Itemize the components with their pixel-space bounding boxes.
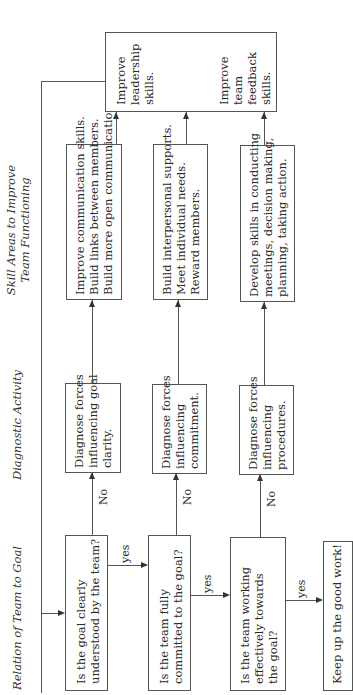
top-box-leadership-feedback: Improve leadership skills. Improve team … <box>105 32 277 112</box>
skill-3-line3: planning, taking action. <box>275 133 289 297</box>
yes-line-2 <box>191 595 224 596</box>
skill-box-communication: Improve communication skills. Build link… <box>66 144 122 300</box>
no-label-3: No <box>265 491 278 507</box>
feedback-line3: feedback <box>245 52 259 105</box>
skill-2-line3: Reward members. <box>188 124 202 295</box>
skill-3-line2: meetings, decision making, <box>261 133 275 297</box>
skill-top-arrow-3-icon <box>261 112 267 119</box>
skill-2-line1: Build interpersonal supports. <box>160 124 174 295</box>
header-diagnostic-activity: Diagnostic Activity <box>10 365 24 485</box>
diagnostic-1-line2: influencing goal <box>86 374 100 468</box>
no-arrow-1-icon <box>89 472 95 479</box>
no-line-3 <box>260 474 261 537</box>
header-relation-to-goal: Relation of Team to Goal <box>10 550 24 690</box>
diagnostic-2-line1: Diagnose forces <box>159 375 173 469</box>
diagnostic-box-goal-clarity: Diagnose forces influencing goal clarity… <box>65 383 121 473</box>
header-skill-line1: Skill Areas to Improve <box>4 155 18 305</box>
question-1-line2: understood by the team? <box>88 539 102 684</box>
no-label-2: No <box>181 489 194 505</box>
question-box-effectiveness: Is the team working effectively towards … <box>230 537 286 691</box>
diagnostic-2-line2: influencing <box>173 375 187 469</box>
no-label-1: No <box>97 489 110 505</box>
feedback-line4: skills. <box>259 52 273 105</box>
diagnostic-3-line2: influencing <box>260 376 274 470</box>
skill-1-line2: Build links between members. <box>87 102 101 295</box>
header-skill-areas: Skill Areas to Improve Team Functioning <box>4 155 32 305</box>
no-arrow-2-icon <box>173 473 179 480</box>
leadership-line2: leadership <box>128 44 142 105</box>
diag-skill-arrow-2-icon <box>175 300 181 307</box>
no-line-2 <box>176 473 177 535</box>
skill-box-interpersonal: Build interpersonal supports. Meet indiv… <box>153 144 208 300</box>
yes-arrow-3-icon <box>316 597 323 603</box>
diagnostic-3-line3: procedures. <box>274 376 288 470</box>
yes-arrow-2-icon <box>223 592 230 598</box>
question-3-line2: effectively towards <box>252 567 266 684</box>
question-3-line1: Is the team working <box>238 567 252 684</box>
final-text: Keep up the good work! <box>330 544 344 684</box>
diag-skill-arrow-3-icon <box>261 302 267 309</box>
question-2-line1: Is the team fully <box>157 549 171 684</box>
diag-skill-line-1 <box>92 300 93 383</box>
entry-arrow-icon <box>58 610 65 616</box>
diagnostic-1-line1: Diagnose forces <box>72 374 86 468</box>
skill-box-meetings: Develop skills in conducting meetings, d… <box>240 145 295 302</box>
question-box-goal-clarity: Is the goal clearly understood by the te… <box>65 535 108 691</box>
diagnostic-box-commitment: Diagnose forces influencing commitment. <box>152 384 207 474</box>
diag-skill-line-3 <box>264 302 265 385</box>
entry-line <box>41 613 59 614</box>
yes-arrow-1-icon <box>141 562 148 568</box>
yes-line-1 <box>108 565 142 566</box>
skill-top-arrow-2-icon <box>183 112 189 119</box>
yes-label-3: yes <box>295 580 308 598</box>
diag-skill-arrow-1-icon <box>89 300 95 307</box>
leadership-line3: skills. <box>142 44 156 105</box>
loop-line-vertical <box>41 81 42 693</box>
skill-1-line3: Build more open communication. <box>101 102 115 295</box>
header-skill-line2: Team Functioning <box>18 155 32 305</box>
feedback-line1: Improve <box>217 52 231 105</box>
no-line-1 <box>92 472 93 535</box>
no-arrow-3-icon <box>257 474 263 481</box>
question-2-line2: committed to the goal? <box>171 549 185 684</box>
question-box-commitment: Is the team fully committed to the goal? <box>148 535 191 691</box>
yes-label-2: yes <box>201 575 214 593</box>
diagnostic-box-procedures: Diagnose forces influencing procedures. <box>239 385 294 475</box>
yes-line-3 <box>286 600 317 601</box>
skill-2-line2: Meet individual needs. <box>174 124 188 295</box>
diag-skill-line-2 <box>178 300 179 384</box>
skill-top-arrow-1-icon <box>113 112 119 119</box>
question-1-line1: Is the goal clearly <box>74 539 88 684</box>
diagnostic-3-line1: Diagnose forces <box>246 376 260 470</box>
feedback-line2: team <box>231 52 245 105</box>
skill-3-line1: Develop skills in conducting <box>247 133 261 297</box>
question-3-line3: the goal? <box>266 567 280 684</box>
skill-1-line1: Improve communication skills. <box>73 102 87 295</box>
leadership-line1: Improve <box>114 44 128 105</box>
yes-label-1: yes <box>119 545 132 563</box>
loop-line-top <box>41 81 105 82</box>
diagnostic-2-line3: commitment. <box>187 375 201 469</box>
final-box: Keep up the good work! <box>323 541 353 691</box>
diagnostic-1-line3: clarity. <box>100 374 114 468</box>
